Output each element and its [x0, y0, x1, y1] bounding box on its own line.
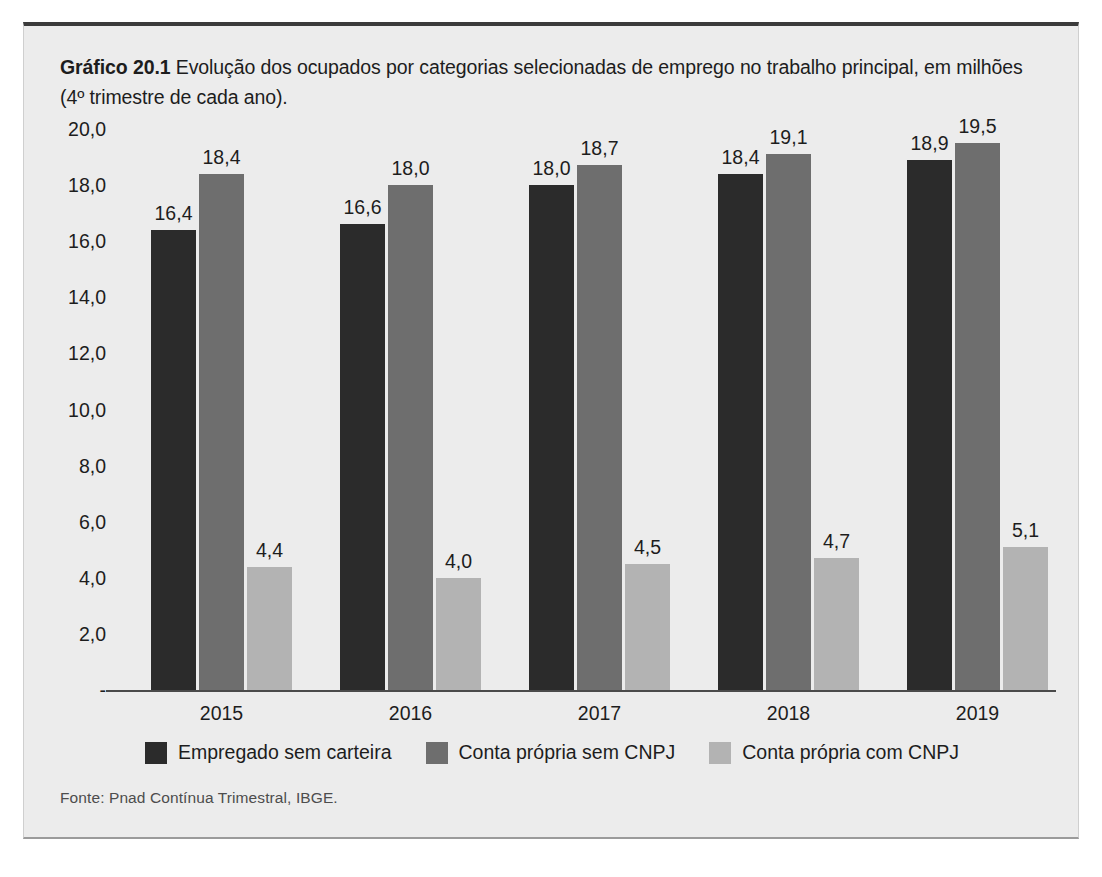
- bar-value-label: 16,6: [344, 196, 382, 219]
- legend-item: Conta própria sem CNPJ: [426, 741, 676, 764]
- bar: [907, 160, 952, 690]
- bar: [529, 185, 574, 690]
- bar-value-label: 18,4: [203, 146, 241, 169]
- legend-label: Conta própria com CNPJ: [742, 741, 959, 764]
- caption-text: Evolução dos ocupados por categorias sel…: [60, 56, 1023, 108]
- bar-value-label: 16,4: [155, 202, 193, 225]
- bar: [955, 143, 1000, 690]
- bar: [199, 174, 244, 690]
- bar: [247, 567, 292, 690]
- bar-value-label: 18,7: [581, 137, 619, 160]
- figure-caption: Gráfico 20.1 Evolução dos ocupados por c…: [60, 52, 1025, 112]
- legend-item: Empregado sem carteira: [145, 741, 392, 764]
- bar-value-label: 4,5: [634, 536, 661, 559]
- bar-value-label: 18,0: [533, 157, 571, 180]
- bar-value-label: 18,9: [911, 132, 949, 155]
- x-tick-label: 2016: [389, 702, 432, 725]
- x-tick-label: 2019: [956, 702, 999, 725]
- figure-source: Fonte: Pnad Contínua Trimestral, IBGE.: [60, 789, 338, 807]
- legend-swatch: [426, 742, 448, 764]
- bar: [151, 230, 196, 690]
- bar: [766, 154, 811, 690]
- bar-value-label: 18,4: [722, 146, 760, 169]
- bar: [1003, 547, 1048, 690]
- legend-item: Conta própria com CNPJ: [709, 741, 959, 764]
- bar-value-label: 4,0: [445, 550, 472, 573]
- bars-layer: 16,418,44,416,618,04,018,018,74,518,419,…: [24, 26, 1080, 843]
- chart-legend: Empregado sem carteiraConta própria sem …: [24, 741, 1080, 764]
- figure-panel: 20,018,016,014,012,010,08,06,04,02,0- 16…: [23, 22, 1079, 839]
- bar-value-label: 4,7: [823, 530, 850, 553]
- legend-label: Conta própria sem CNPJ: [459, 741, 676, 764]
- x-tick-label: 2017: [578, 702, 621, 725]
- bar-value-label: 19,5: [959, 115, 997, 138]
- legend-swatch: [145, 742, 167, 764]
- bar-value-label: 19,1: [770, 126, 808, 149]
- legend-label: Empregado sem carteira: [178, 741, 392, 764]
- bar-value-label: 18,0: [392, 157, 430, 180]
- chart-plot-area: 20,018,016,014,012,010,08,06,04,02,0- 16…: [24, 26, 1080, 843]
- bar: [436, 578, 481, 690]
- legend-swatch: [709, 742, 731, 764]
- bar: [814, 558, 859, 690]
- bar: [625, 564, 670, 690]
- bar: [388, 185, 433, 690]
- x-tick-label: 2018: [767, 702, 810, 725]
- bar: [340, 224, 385, 690]
- bar: [577, 165, 622, 690]
- bar-value-label: 5,1: [1012, 519, 1039, 542]
- bar: [718, 174, 763, 690]
- bar-value-label: 4,4: [256, 539, 283, 562]
- caption-number: Gráfico 20.1: [60, 56, 170, 78]
- x-tick-label: 2015: [200, 702, 243, 725]
